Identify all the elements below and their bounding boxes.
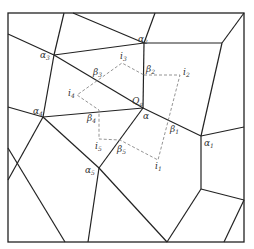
label-alpha1: α1	[204, 138, 214, 149]
label-i3: i3	[120, 51, 127, 62]
label-beta5: β5	[116, 144, 126, 155]
labels: α2 α3 α4 α5 α1 α Qa β2 β3 β4 β5 β1 i2 i3…	[33, 34, 214, 176]
label-q: Qa	[132, 96, 143, 107]
label-beta1: β1	[169, 124, 179, 135]
label-i5: i5	[95, 141, 102, 152]
label-alpha4: α4	[33, 106, 43, 117]
label-beta3: β3	[92, 67, 102, 78]
label-alpha5: α5	[85, 165, 95, 176]
outer-border	[8, 13, 244, 242]
label-alpha: α	[143, 111, 149, 121]
label-i4: i4	[68, 88, 75, 99]
label-alpha3: α3	[40, 50, 50, 61]
label-beta4: β4	[86, 113, 96, 124]
mesh-edges	[8, 13, 244, 242]
label-beta2: β2	[145, 64, 155, 75]
mesh-diagram: α2 α3 α4 α5 α1 α Qa β2 β3 β4 β5 β1 i2 i3…	[0, 0, 254, 249]
label-i1: i1	[155, 161, 162, 172]
label-i2: i2	[183, 67, 190, 78]
